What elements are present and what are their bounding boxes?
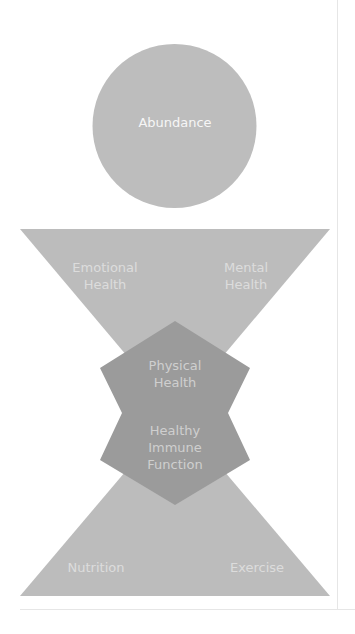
mental-health-label: Mental Health [206,259,286,293]
immune-function-line2: Immune [125,439,225,456]
physical-health-label: Physical Health [125,357,225,391]
emotional-health-line1: Emotional [55,259,155,276]
mental-health-line1: Mental [206,259,286,276]
immune-function-line3: Function [125,456,225,473]
exercise-label: Exercise [212,559,302,576]
health-diagram [0,0,355,634]
nutrition-label: Nutrition [50,559,142,576]
physical-health-line1: Physical [125,357,225,374]
physical-health-line2: Health [125,374,225,391]
immune-function-label: Healthy Immune Function [125,422,225,473]
immune-function-line1: Healthy [125,422,225,439]
mental-health-line2: Health [206,276,286,293]
emotional-health-label: Emotional Health [55,259,155,293]
emotional-health-line2: Health [55,276,155,293]
abundance-label: Abundance [110,114,240,131]
